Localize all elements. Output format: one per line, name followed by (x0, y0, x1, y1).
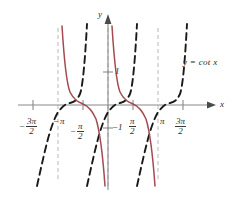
fraction: 3π2 (175, 117, 186, 136)
x-axis-arrowhead (207, 102, 216, 109)
x-axis-label: x (220, 100, 224, 109)
equation-annotation: y = cot x (183, 58, 218, 67)
x-tick-label-neg-3pi-over-2: −3π2 (19, 117, 37, 136)
y-axis (103, 14, 113, 190)
y-tick-label-minus-1: −1 (112, 123, 123, 132)
y-axis-label: y (98, 10, 102, 19)
minus-sign: − (19, 122, 26, 131)
x-tick-label-pi: π (160, 117, 165, 126)
pi-glyph: π (160, 116, 165, 126)
fraction: π2 (77, 122, 84, 141)
fraction: 3π2 (26, 117, 37, 136)
x-tick-label-pi-over-2: π2 (129, 117, 136, 136)
cotangent-graph-figure: y x 1 −1 −3π2 −π −π2 π2 π 3π2 y = cot x (0, 0, 241, 201)
graph-canvas (0, 0, 241, 201)
x-tick-label-3pi-over-2: 3π2 (175, 117, 186, 136)
x-axis (18, 100, 216, 110)
minus-sign: − (70, 127, 77, 136)
y-tick-label-1: 1 (115, 67, 120, 76)
x-tick-label-neg-pi-over-2: −π2 (70, 122, 84, 141)
y-axis-arrowhead (105, 14, 112, 24)
pi-glyph: π (60, 116, 65, 126)
fraction: π2 (129, 117, 136, 136)
x-tick-label-neg-pi: −π (53, 117, 65, 126)
